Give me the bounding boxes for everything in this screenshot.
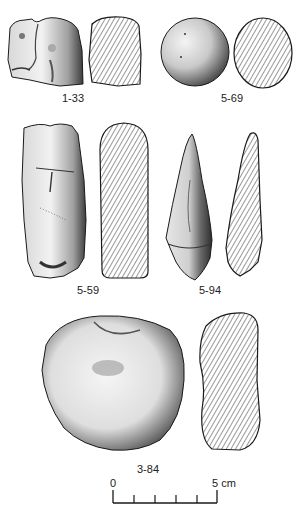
artifact-5-69-drawing: [161, 18, 229, 86]
artifact-5-59-section: [100, 123, 148, 278]
artifact-5-94-section: [226, 133, 262, 276]
artifact-3-84-drawing: [42, 316, 184, 451]
artifact-label-5-59: 5-59: [77, 284, 99, 296]
artifact-label-1-33: 1-33: [62, 92, 84, 104]
artifact-label-3-84: 3-84: [137, 463, 159, 475]
artifact-label-5-69: 5-69: [221, 92, 243, 104]
scale-bar: [113, 490, 217, 503]
artifact-1-33-drawing: [8, 18, 83, 86]
artifact-1-33-section: [89, 17, 141, 86]
artifact-3-84-section: [200, 313, 260, 450]
artifact-5-69-section: [234, 18, 292, 88]
artifact-plate: [0, 0, 297, 520]
scale-start-label: 0: [110, 477, 116, 489]
artifact-5-94-drawing: [166, 134, 212, 280]
artifact-5-59-drawing: [22, 124, 86, 278]
scale-end-label: 5 cm: [212, 477, 236, 489]
artifact-label-5-94: 5-94: [199, 284, 221, 296]
